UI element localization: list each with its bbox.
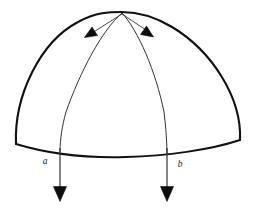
apex-arrow-left-head (85, 27, 98, 38)
figure-canvas: a b (0, 0, 258, 210)
drop-arrow-a-head (54, 187, 67, 202)
apex-arrow-right-shaft (122, 14, 146, 30)
label-b: b (178, 159, 183, 169)
dome-diagram: a b (0, 0, 258, 210)
drop-arrow-b-head (161, 187, 174, 202)
label-a: a (43, 156, 48, 166)
dome-base-curve (16, 140, 240, 157)
dome-outline (16, 12, 240, 144)
